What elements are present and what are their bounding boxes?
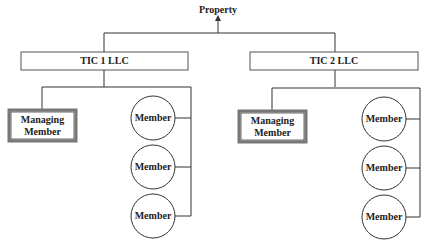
tic2-member-3: Member bbox=[362, 211, 406, 223]
tic1-member-1: Member bbox=[131, 112, 175, 124]
tic2-member-1: Member bbox=[362, 113, 406, 125]
tic1-managing-member-line1: Managing bbox=[9, 114, 76, 126]
tic2-managing-member-line1: Managing bbox=[239, 115, 306, 127]
tic1-member-3: Member bbox=[131, 210, 175, 222]
root-property-label: Property bbox=[188, 4, 248, 16]
tic2-member-2: Member bbox=[362, 162, 406, 174]
tic2-llc-label: TIC 2 LLC bbox=[250, 55, 418, 67]
tic2-managing-member-line2: Member bbox=[239, 127, 306, 139]
ownership-diagram: Property TIC 1 LLC Managing Member Membe… bbox=[0, 0, 426, 244]
tic1-llc-label: TIC 1 LLC bbox=[21, 55, 188, 67]
tic1-member-2: Member bbox=[131, 161, 175, 173]
tic1-managing-member-line2: Member bbox=[9, 126, 76, 138]
